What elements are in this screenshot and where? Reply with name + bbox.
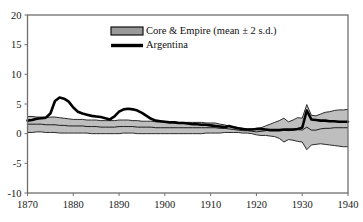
- x-tick-label: 1930: [292, 199, 313, 210]
- legend-swatch-band: [111, 27, 143, 35]
- y-tick-label: 0: [16, 128, 21, 139]
- y-tick-label: -5: [13, 158, 22, 169]
- y-tick-label: 5: [16, 99, 21, 110]
- x-tick-label: 1900: [154, 199, 175, 210]
- x-tick-label: 1920: [246, 199, 267, 210]
- y-tick-label: 20: [11, 10, 22, 21]
- x-tick-label: 1910: [200, 199, 221, 210]
- y-tick-label: -10: [8, 188, 22, 199]
- legend-label: Core & Empire (mean ± 2 s.d.): [146, 25, 277, 37]
- legend-label: Argentina: [146, 39, 188, 50]
- time-series-chart: -10-505101520 18701880189019001910192019…: [0, 0, 363, 222]
- x-tick-label: 1880: [63, 199, 84, 210]
- x-tick-label: 1870: [17, 199, 38, 210]
- y-tick-label: 15: [11, 39, 22, 50]
- x-tick-label: 1890: [109, 199, 130, 210]
- x-tick-label: 1940: [338, 199, 359, 210]
- y-tick-label: 10: [11, 69, 22, 80]
- chart-figure: -10-505101520 18701880189019001910192019…: [0, 0, 363, 222]
